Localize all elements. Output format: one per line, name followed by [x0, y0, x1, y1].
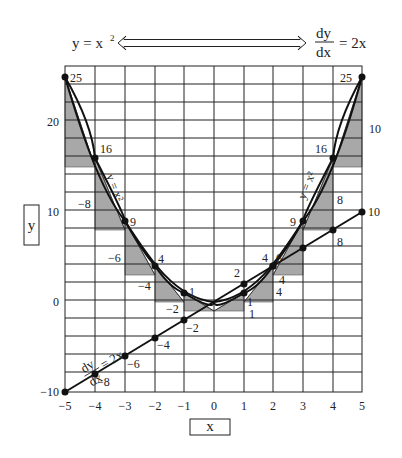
- svg-text:25: 25: [340, 71, 352, 85]
- svg-text:−4: −4: [157, 338, 170, 352]
- svg-text:x: x: [206, 418, 214, 434]
- svg-text:−3: −3: [119, 399, 132, 413]
- svg-text:−5: −5: [59, 399, 72, 413]
- derivative-label: dy dx = 2x: [77, 341, 131, 390]
- diagram: y = x 2 dy dx = 2x: [0, 0, 402, 458]
- svg-text:1: 1: [189, 285, 195, 299]
- svg-text:6: 6: [276, 251, 282, 265]
- double-arrow-icon: [118, 36, 306, 50]
- svg-text:−8: −8: [78, 197, 91, 211]
- svg-text:25: 25: [70, 71, 82, 85]
- left-exponent: 2: [110, 33, 115, 43]
- x-tick-labels: −5 −4 −3 −2 −1 0 1 2 3 4 5: [59, 399, 365, 413]
- svg-text:−10: −10: [40, 385, 59, 399]
- svg-text:−2: −2: [186, 321, 199, 335]
- svg-text:1: 1: [249, 307, 255, 321]
- svg-text:8: 8: [337, 235, 343, 249]
- header: y = x 2 dy dx = 2x: [72, 25, 367, 60]
- svg-text:4: 4: [262, 251, 268, 265]
- svg-text:5: 5: [359, 399, 365, 413]
- svg-text:0: 0: [53, 295, 59, 309]
- svg-text:0: 0: [211, 399, 217, 413]
- left-formula: y = x: [72, 35, 103, 51]
- svg-text:3: 3: [300, 399, 306, 413]
- svg-text:−6: −6: [127, 357, 140, 371]
- svg-text:−2: −2: [166, 302, 179, 316]
- svg-text:4: 4: [276, 285, 282, 299]
- svg-text:2: 2: [270, 399, 276, 413]
- svg-text:−6: −6: [108, 251, 121, 265]
- y-axis-label: y: [24, 205, 39, 245]
- svg-text:20: 20: [47, 115, 59, 129]
- svg-text:−4: −4: [89, 399, 102, 413]
- svg-text:−1: −1: [178, 399, 191, 413]
- svg-text:= 2x: = 2x: [98, 347, 126, 372]
- svg-text:y: y: [28, 217, 36, 233]
- svg-text:−4: −4: [138, 279, 151, 293]
- svg-text:16: 16: [315, 142, 327, 156]
- svg-text:10: 10: [47, 205, 59, 219]
- svg-text:16: 16: [100, 142, 112, 156]
- svg-text:9: 9: [290, 215, 296, 229]
- x-axis-label: x: [190, 418, 230, 435]
- svg-text:4: 4: [330, 399, 336, 413]
- header-dx: dx: [316, 44, 332, 60]
- svg-text:9: 9: [130, 215, 136, 229]
- header-dy: dy: [316, 25, 332, 41]
- y-tick-labels: 20 10 0 −10: [40, 115, 59, 399]
- svg-text:1: 1: [241, 399, 247, 413]
- svg-text:2: 2: [234, 266, 240, 280]
- svg-text:10: 10: [369, 122, 381, 136]
- svg-text:8: 8: [337, 193, 343, 207]
- svg-text:−2: −2: [149, 399, 162, 413]
- svg-text:10: 10: [368, 205, 380, 219]
- header-rhs: = 2x: [339, 35, 367, 51]
- svg-text:4: 4: [158, 252, 164, 266]
